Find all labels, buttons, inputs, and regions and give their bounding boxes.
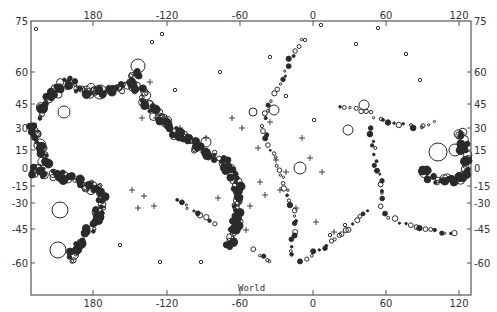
event-marker [66, 80, 70, 84]
event-marker [272, 91, 277, 96]
event-marker [444, 232, 446, 234]
event-marker [310, 254, 313, 257]
event-marker [343, 223, 346, 226]
event-marker [160, 32, 163, 35]
event-marker [418, 78, 421, 81]
event-marker [290, 246, 293, 249]
large-event-ring [294, 162, 306, 174]
event-marker [289, 237, 294, 242]
left-tick-label: -45 [12, 224, 28, 235]
event-marker [268, 260, 271, 263]
plus-marker [313, 219, 319, 225]
left-tick-label: 45 [15, 99, 28, 110]
event-marker [270, 100, 273, 103]
event-marker [333, 238, 336, 241]
plus-marker [203, 135, 209, 141]
event-marker [67, 255, 71, 259]
event-marker [284, 70, 286, 72]
top-axis-ticks: 180-120-60060120 [83, 10, 468, 26]
plus-marker [299, 135, 305, 141]
event-marker [42, 167, 45, 170]
event-marker [361, 212, 365, 216]
event-marker [208, 219, 211, 222]
bottom-tick-label: 60 [380, 298, 393, 309]
plus-marker [267, 119, 273, 125]
event-marker [374, 147, 377, 150]
event-marker [282, 176, 284, 178]
event-marker [290, 253, 294, 257]
event-marker [287, 189, 289, 191]
left-tick-label: 60 [15, 67, 28, 78]
event-marker [287, 202, 292, 207]
event-marker [286, 64, 291, 69]
event-marker [297, 45, 301, 49]
event-marker [281, 182, 285, 186]
plus-marker [307, 155, 313, 161]
left-tick-label: 0 [22, 163, 28, 174]
event-marker [180, 200, 185, 205]
event-marker [293, 215, 295, 217]
right-tick-label: -30 [474, 198, 490, 209]
event-marker [74, 90, 77, 93]
event-marker [452, 230, 457, 235]
event-marker [342, 106, 346, 110]
plus-marker [319, 169, 325, 175]
large-event-ring [359, 100, 369, 110]
left-tick-label: -60 [12, 258, 28, 269]
event-marker [284, 75, 286, 77]
right-tick-label: 0 [474, 163, 480, 174]
top-tick-label: 0 [310, 10, 316, 21]
event-marker [298, 259, 303, 264]
plus-marker [247, 203, 253, 209]
event-marker [287, 199, 290, 202]
event-marker [279, 83, 281, 85]
event-marker [286, 56, 291, 61]
plus-marker [141, 193, 147, 199]
event-marker [185, 204, 187, 206]
event-marker [325, 244, 328, 247]
event-marker [268, 55, 271, 58]
event-marker [173, 88, 176, 91]
event-marker [404, 52, 407, 55]
event-marker [370, 144, 373, 147]
large-event-ring [50, 242, 66, 258]
event-marker [168, 126, 173, 131]
plus-marker [277, 187, 283, 193]
event-marker [387, 216, 390, 219]
event-marker [292, 54, 295, 57]
event-marker [423, 227, 428, 232]
event-marker [293, 49, 297, 53]
event-marker [367, 210, 369, 212]
right-tick-label: 45 [474, 99, 487, 110]
top-tick-label: -60 [232, 10, 248, 21]
plus-marker [257, 179, 263, 185]
left-tick-label: -15 [12, 181, 28, 192]
event-marker [227, 244, 233, 250]
event-marker [373, 153, 376, 156]
bottom-axis-ticks: 180-120-60060120 [83, 290, 468, 309]
event-marker [383, 211, 388, 216]
plus-marker [293, 205, 299, 211]
event-marker [186, 207, 188, 209]
large-event-ring [52, 202, 68, 218]
seismicity-map: 180-120-60060120 180-120-60060120 756045… [0, 0, 497, 312]
event-marker [284, 94, 287, 97]
bottom-tick-label: 0 [310, 298, 316, 309]
right-tick-label: 60 [474, 67, 487, 78]
left-tick-label: 15 [15, 145, 28, 156]
bottom-tick-label: 120 [449, 298, 468, 309]
event-marker [428, 124, 430, 126]
event-marker [218, 70, 221, 73]
event-marker [197, 147, 201, 151]
event-marker [393, 122, 395, 124]
plus-marker [215, 195, 221, 201]
event-marker [396, 122, 401, 127]
event-marker [277, 168, 282, 173]
large-event-ring [429, 143, 447, 161]
event-marker [261, 129, 266, 134]
event-marker [318, 249, 320, 251]
event-marker [378, 204, 383, 209]
earthquake-events [27, 23, 473, 264]
plus-marker [262, 192, 268, 198]
right-tick-label: -45 [474, 224, 490, 235]
